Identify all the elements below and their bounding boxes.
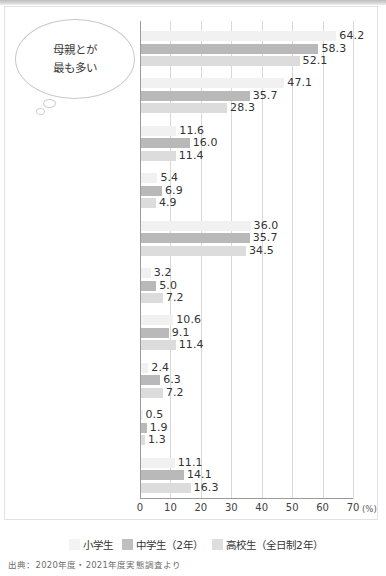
x-axis-line <box>140 498 353 499</box>
legend-item-2: 高校生（全日制2年） <box>212 537 323 552</box>
x-axis-ticks: 010203040506070(%) <box>140 502 386 516</box>
bar-value-label: 16.0 <box>193 136 218 149</box>
bar-value-label: 64.2 <box>339 29 364 42</box>
bubble-tail-small <box>36 108 45 115</box>
bar-group-item: 4.9 <box>141 198 354 208</box>
annotation-line-2: 最も多い <box>53 59 97 77</box>
bar-value-label: 4.9 <box>159 196 177 209</box>
bar-1 <box>141 186 162 196</box>
bar-group-item: 16.3 <box>141 483 354 493</box>
bar-2 <box>141 340 176 350</box>
bar-group-item: 11.4 <box>141 151 354 161</box>
x-tick-0: 0 <box>137 502 143 513</box>
bar-value-label: 7.2 <box>166 386 184 399</box>
bar-0 <box>141 78 284 88</box>
bar-group-item: 47.1 <box>141 78 354 88</box>
bar-value-label: 1.9 <box>150 421 168 434</box>
source-note: 出典：2020年度・2021年度実態調査より <box>8 558 182 570</box>
bar-value-label: 11.4 <box>179 338 204 351</box>
bar-group-item: 64.2 <box>141 31 354 41</box>
bar-group-item: 35.7 <box>141 91 354 101</box>
bar-value-label: 6.9 <box>165 184 183 197</box>
bar-value-label: 58.3 <box>321 42 346 55</box>
bar-value-label: 34.5 <box>249 244 274 257</box>
bar-group-item: 5.4 <box>141 173 354 183</box>
chart-legend: 小学生中学生（2年）高校生（全日制2年） <box>9 537 383 552</box>
annotation-callout-bubble: 母親とが 最も多い <box>15 19 135 99</box>
bar-value-label: 9.1 <box>172 326 190 339</box>
annotation-line-1: 母親とが <box>53 41 97 59</box>
legend-swatch-1 <box>122 539 133 550</box>
bar-group-item: 3.2 <box>141 268 354 278</box>
bar-value-label: 14.1 <box>187 468 212 481</box>
bar-2 <box>141 435 145 445</box>
bar-group-item: 11.1 <box>141 458 354 468</box>
bar-1 <box>141 328 169 338</box>
bar-2 <box>141 103 227 113</box>
bar-1 <box>141 91 250 101</box>
x-tick-30: 30 <box>225 502 238 513</box>
bar-group-item: 36.0 <box>141 221 354 231</box>
bar-0 <box>141 126 176 136</box>
bar-value-label: 35.7 <box>253 89 278 102</box>
bar-group-item: 10.6 <box>141 315 354 325</box>
bubble-tail-large <box>43 99 56 108</box>
x-tick-20: 20 <box>194 502 207 513</box>
bar-value-label: 3.2 <box>154 266 172 279</box>
x-axis-unit-label: (%) <box>362 504 377 514</box>
bar-value-label: 36.0 <box>254 219 279 232</box>
bar-group-item: 35.7 <box>141 233 354 243</box>
x-tick-10: 10 <box>164 502 177 513</box>
bar-group-item: 6.9 <box>141 186 354 196</box>
bar-value-label: 0.5 <box>146 408 164 421</box>
legend-swatch-0 <box>69 539 80 550</box>
bar-value-label: 6.3 <box>163 373 181 386</box>
bar-value-label: 47.1 <box>287 76 312 89</box>
bar-1 <box>141 375 160 385</box>
bar-2 <box>141 246 246 256</box>
legend-item-0: 小学生 <box>69 537 113 552</box>
bar-2 <box>141 483 191 493</box>
bar-group-item: 14.1 <box>141 470 354 480</box>
legend-item-1: 中学生（2年） <box>122 537 203 552</box>
bar-group-item: 5.0 <box>141 281 354 291</box>
bar-0 <box>141 315 173 325</box>
bar-2 <box>141 198 156 208</box>
x-tick-60: 60 <box>316 502 329 513</box>
bar-chart-plot-area: 母親64.258.352.1父親47.135.728.3祖母11.616.011… <box>140 21 353 499</box>
bar-2 <box>141 151 176 161</box>
bar-group-item: 1.3 <box>141 435 354 445</box>
bar-group-item: 1.9 <box>141 423 354 433</box>
bar-0 <box>141 31 336 41</box>
x-tick-40: 40 <box>255 502 268 513</box>
bar-value-label: 1.3 <box>148 433 166 446</box>
bar-group-item: 11.4 <box>141 340 354 350</box>
bar-1 <box>141 44 318 54</box>
legend-label-1: 中学生（2年） <box>136 537 203 552</box>
bar-group-item: 28.3 <box>141 103 354 113</box>
bar-value-label: 5.4 <box>160 171 178 184</box>
legend-label-2: 高校生（全日制2年） <box>226 537 323 552</box>
bar-2 <box>141 388 163 398</box>
bar-value-label: 7.2 <box>166 291 184 304</box>
bar-value-label: 11.1 <box>178 456 203 469</box>
legend-swatch-2 <box>212 539 223 550</box>
bar-1 <box>141 138 190 148</box>
x-tick-50: 50 <box>286 502 299 513</box>
bar-0 <box>141 221 251 231</box>
bar-group-item: 11.6 <box>141 126 354 136</box>
bar-2 <box>141 56 300 66</box>
bar-group-item: 16.0 <box>141 138 354 148</box>
bar-0 <box>141 173 157 183</box>
bar-group-item: 58.3 <box>141 44 354 54</box>
bar-0 <box>141 410 143 420</box>
x-tick-70: 70 <box>347 502 360 513</box>
legend-label-0: 小学生 <box>83 537 113 552</box>
cut-off-top-strip <box>0 0 386 5</box>
bar-group-item: 34.5 <box>141 246 354 256</box>
bar-group-item: 7.2 <box>141 293 354 303</box>
bar-value-label: 5.0 <box>159 279 177 292</box>
bar-group-item: 9.1 <box>141 328 354 338</box>
bar-value-label: 10.6 <box>176 313 201 326</box>
bar-group-item: 0.5 <box>141 410 354 420</box>
